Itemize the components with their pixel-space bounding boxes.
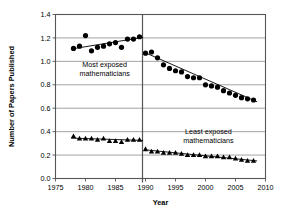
- point-circle: [179, 69, 184, 74]
- point-circle: [107, 41, 112, 46]
- least-exposed-label: Least exposedmathematicians: [183, 127, 234, 145]
- point-circle: [221, 88, 226, 93]
- x-tick-label-2: 1985: [108, 183, 124, 192]
- point-circle: [245, 96, 250, 101]
- point-circle: [83, 33, 88, 38]
- point-circle: [191, 75, 196, 80]
- point-circle: [125, 37, 130, 42]
- point-circle: [161, 62, 166, 67]
- point-circle: [203, 82, 208, 87]
- x-axis-title: Year: [153, 198, 169, 207]
- least-exposed-label-line-1: mathematicians: [183, 136, 234, 145]
- point-circle: [227, 90, 232, 95]
- point-circle: [131, 37, 136, 42]
- figure-container: 19751980198519901995200020052010 0.00.20…: [0, 0, 297, 213]
- point-circle: [95, 45, 100, 50]
- y-tick-label-1: 0.2: [41, 151, 51, 160]
- point-circle: [239, 95, 244, 100]
- x-tick-label-1: 1980: [78, 183, 94, 192]
- x-tick-label-0: 1975: [48, 183, 64, 192]
- point-circle: [251, 97, 256, 102]
- point-circle: [233, 93, 238, 98]
- point-circle: [77, 44, 82, 49]
- point-circle: [173, 68, 178, 73]
- y-axis-title: Number of Papers Published: [7, 46, 16, 148]
- y-tick-label-4: 0.8: [41, 80, 51, 89]
- point-circle: [143, 51, 148, 56]
- most-exposed-label-line-0: Most exposed: [82, 60, 127, 69]
- point-circle: [71, 46, 76, 51]
- y-tick-label-0: 0.0: [41, 174, 51, 183]
- most-exposed-label-line-1: mathematicians: [80, 69, 131, 78]
- x-tick-label-3: 1990: [138, 183, 154, 192]
- point-circle: [137, 34, 142, 39]
- point-circle: [101, 44, 106, 49]
- y-tick-label-7: 1.4: [41, 10, 51, 19]
- point-circle: [155, 55, 160, 60]
- x-tick-label-7: 2010: [258, 183, 274, 192]
- point-circle: [89, 48, 94, 53]
- point-circle: [113, 40, 118, 45]
- point-circle: [119, 45, 124, 50]
- scatter-chart: 19751980198519901995200020052010 0.00.20…: [0, 0, 297, 213]
- point-circle: [167, 66, 172, 71]
- point-circle: [209, 83, 214, 88]
- most-exposed-label: Most exposedmathematicians: [80, 60, 131, 78]
- point-circle: [149, 49, 154, 54]
- x-tick-label-5: 2000: [198, 183, 214, 192]
- y-tick-label-3: 0.6: [41, 104, 51, 113]
- x-tick-label-4: 1995: [168, 183, 184, 192]
- y-tick-label-2: 0.4: [41, 127, 51, 136]
- x-tick-label-6: 2005: [228, 183, 244, 192]
- least-exposed-label-line-0: Least exposed: [185, 127, 232, 136]
- y-tick-label-5: 1.0: [41, 57, 51, 66]
- point-circle: [215, 85, 220, 90]
- y-tick-label-6: 1.2: [41, 34, 51, 43]
- point-circle: [185, 74, 190, 79]
- point-circle: [197, 75, 202, 80]
